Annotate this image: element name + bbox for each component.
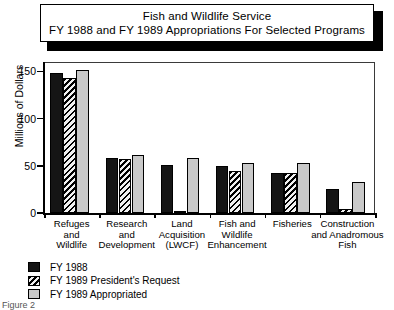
y-axis-tick [37,165,43,167]
chart-title-block: Fish and Wildlife Service FY 1988 and FY… [40,4,376,44]
category-label-line: Fish [308,240,387,251]
bar [284,173,297,213]
bar [339,209,352,213]
bar [161,165,174,213]
bar-group [50,62,89,213]
figure-caption: Figure 2 [2,300,35,310]
bar-group [106,62,145,213]
legend-label: FY 1989 Appropriated [50,289,147,300]
bar-group [216,62,255,213]
x-axis-tick [99,213,101,218]
category-label-line: Construction [308,219,387,230]
x-axis-tick [154,213,156,218]
x-axis-category-label: Constructionand AnadromousFish [308,219,387,251]
bar [216,166,229,213]
legend-label: FY 1988 [50,262,88,273]
bar [326,189,339,213]
bar-group [326,62,365,213]
bar [63,78,76,213]
category-label-line: Enhancement [197,240,276,251]
bar [76,70,89,213]
x-axis-tick [320,213,322,218]
x-axis-category-labels: RefugesandWildlifeResearchandDevelopment… [44,219,375,263]
bar-group [161,62,200,213]
y-axis-tick-label: 50 [24,161,36,171]
bar [271,173,284,213]
legend-swatch [28,289,40,299]
legend-label: FY 1989 President's Request [50,275,180,286]
y-axis-title: Millions of Dollars [13,41,25,171]
bar [242,163,255,213]
legend-item: FY 1989 Appropriated [28,288,278,301]
x-axis-tick [375,213,377,218]
bar [106,158,119,213]
y-axis-tick [37,71,43,73]
y-axis-tick-label: 0 [30,208,36,218]
legend-swatch [28,262,40,272]
bar [297,163,310,213]
legend-item: FY 1988 [28,261,278,274]
bar [187,158,200,213]
chart-title-line-1: Fish and Wildlife Service [143,9,271,23]
chart-legend: FY 1988FY 1989 President's RequestFY 198… [28,261,278,302]
y-axis-tick [37,212,43,214]
legend-swatch [28,276,40,286]
bar [352,182,365,213]
bar [174,211,187,214]
bar-series-layer [44,62,375,213]
x-axis-tick [265,213,267,218]
bar [132,155,145,214]
bar [229,171,242,213]
bar [50,73,63,213]
title-box: Fish and Wildlife Service FY 1988 and FY… [40,4,374,42]
x-axis-tick [44,213,46,218]
x-axis-tick [210,213,212,218]
y-axis-tick [37,118,43,120]
chart-title-line-2: FY 1988 and FY 1989 Appropriations For S… [49,23,365,37]
bar [119,159,132,213]
legend-item: FY 1989 President's Request [28,275,278,288]
bar-group [271,62,310,213]
